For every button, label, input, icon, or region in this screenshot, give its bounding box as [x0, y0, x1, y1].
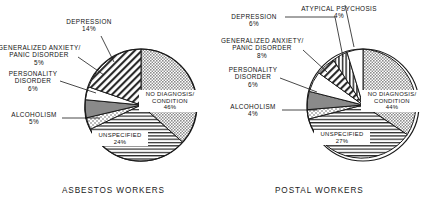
- inlabel-no-diagnosis-line1: NO DIAGNOSIS/: [363, 91, 421, 98]
- callout-atypical-psychosis: ATYPICAL PSYCHOSIS 4%: [285, 5, 393, 20]
- callout-depression: DEPRESSION 14%: [48, 18, 130, 33]
- inlabel-no-diagnosis-line3: 44%: [363, 104, 421, 111]
- figure-canvas: DEPRESSION 14% GENERALIZED ANXIETY/ PANI…: [0, 0, 446, 200]
- inlabel-no-diagnosis-line2: CONDITION: [141, 98, 199, 105]
- callout-depression-line1: DEPRESSION: [225, 13, 283, 20]
- callout-generalized-anxiety: GENERALIZED ANXIETY/ PANIC DISORDER 8%: [221, 37, 303, 59]
- callout-alcoholism-line2: 5%: [6, 118, 62, 125]
- inlabel-unspecified: UNSPECIFIED 27%: [314, 130, 370, 145]
- callout-generalized-anxiety-line3: 8%: [221, 52, 303, 59]
- inlabel-unspecified: UNSPECIFIED 24%: [92, 131, 148, 146]
- callout-personality-disorder-line3: 6%: [4, 85, 62, 92]
- inlabel-unspecified-line1: UNSPECIFIED: [316, 131, 368, 138]
- callout-personality-disorder-line1: PERSONALITY: [4, 70, 62, 77]
- pie-chart-postal-workers: ATYPICAL PSYCHOSIS 4% DEPRESSION 6% GENE…: [223, 0, 446, 200]
- callout-personality-disorder-line2: DISORDER: [224, 73, 282, 80]
- callout-depression-line1: DEPRESSION: [48, 18, 130, 25]
- inlabel-no-diagnosis: NO DIAGNOSIS/ CONDITION 44%: [361, 90, 423, 112]
- inlabel-unspecified-line2: 27%: [316, 138, 368, 145]
- callout-personality-disorder-line1: PERSONALITY: [224, 66, 282, 73]
- callout-depression-line2: 14%: [48, 25, 130, 32]
- callout-generalized-anxiety-line1: GENERALIZED ANXIETY/: [221, 37, 303, 44]
- callout-atypical-psychosis-line1: ATYPICAL PSYCHOSIS: [285, 5, 393, 12]
- callout-generalized-anxiety-line1: GENERALIZED ANXIETY/: [0, 44, 80, 51]
- inlabel-no-diagnosis-line3: 46%: [141, 104, 199, 111]
- inlabel-unspecified-line2: 24%: [94, 139, 146, 146]
- chart-caption-postal: POSTAL WORKERS: [275, 186, 364, 195]
- callout-personality-disorder-line3: 6%: [224, 81, 282, 88]
- callout-personality-disorder: PERSONALITY DISORDER 6%: [4, 70, 62, 92]
- callout-alcoholism-line1: ALCOHOLISM: [6, 111, 62, 118]
- leader-generalized-anxiety: [303, 50, 327, 72]
- callout-generalized-anxiety: GENERALIZED ANXIETY/ PANIC DISORDER 5%: [0, 44, 80, 66]
- inlabel-unspecified-line1: UNSPECIFIED: [94, 132, 146, 139]
- callout-generalized-anxiety-line2: PANIC DISORDER: [221, 44, 303, 51]
- callout-personality-disorder-line2: DISORDER: [4, 77, 62, 84]
- callout-alcoholism-line2: 4%: [225, 110, 281, 117]
- inlabel-no-diagnosis-line2: CONDITION: [363, 98, 421, 105]
- callout-generalized-anxiety-line3: 5%: [0, 59, 80, 66]
- callout-alcoholism: ALCOHOLISM 5%: [6, 111, 62, 126]
- callout-depression-line2: 6%: [225, 20, 283, 27]
- callout-generalized-anxiety-line2: PANIC DISORDER: [0, 51, 80, 58]
- inlabel-no-diagnosis-line1: NO DIAGNOSIS/: [141, 91, 199, 98]
- callout-atypical-psychosis-line2: 4%: [285, 12, 393, 19]
- callout-depression: DEPRESSION 6%: [225, 13, 283, 28]
- pie-chart-asbestos-workers: DEPRESSION 14% GENERALIZED ANXIETY/ PANI…: [0, 0, 223, 200]
- leader-depression: [101, 36, 114, 62]
- callout-alcoholism-line1: ALCOHOLISM: [225, 103, 281, 110]
- callout-alcoholism: ALCOHOLISM 4%: [225, 103, 281, 118]
- callout-personality-disorder: PERSONALITY DISORDER 6%: [224, 66, 282, 88]
- chart-caption-asbestos: ASBESTOS WORKERS: [62, 186, 165, 195]
- inlabel-no-diagnosis: NO DIAGNOSIS/ CONDITION 46%: [139, 90, 201, 112]
